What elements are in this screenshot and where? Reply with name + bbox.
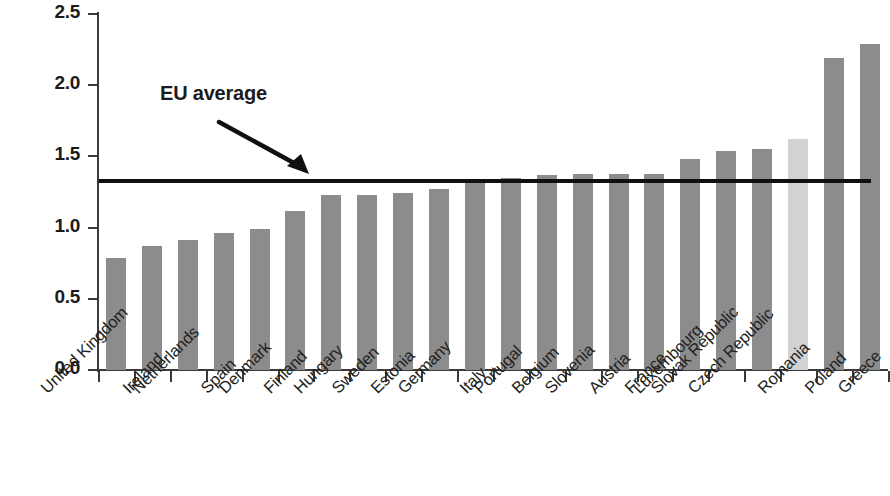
- bar: [142, 246, 162, 370]
- bar: [573, 174, 593, 371]
- bar: [178, 240, 198, 370]
- y-axis-tick: [88, 84, 98, 86]
- x-axis-tick: [457, 371, 459, 382]
- y-axis-tick-label: 2.5: [28, 1, 80, 23]
- x-axis-tick: [493, 371, 495, 382]
- x-axis-tick: [708, 371, 710, 382]
- y-axis-tick: [88, 298, 98, 300]
- x-axis-tick: [816, 371, 818, 382]
- y-axis-tick: [88, 13, 98, 15]
- bar: [680, 159, 700, 370]
- x-axis-tick: [780, 371, 782, 382]
- x-axis-tick: [278, 371, 280, 382]
- bar: [501, 178, 521, 370]
- bar: [465, 182, 485, 370]
- bar: [644, 174, 664, 371]
- x-axis-tick: [98, 371, 100, 382]
- x-axis-tick: [313, 371, 315, 382]
- x-axis-tick: [565, 371, 567, 382]
- x-axis-tick: [206, 371, 208, 382]
- bar: [393, 193, 413, 370]
- y-axis-tick-label: 1.0: [28, 215, 80, 237]
- x-axis-tick: [242, 371, 244, 382]
- chart-page: 0.00.51.01.52.02.5 EU average United Kin…: [0, 0, 890, 496]
- x-axis-tick: [637, 371, 639, 382]
- bar: [788, 139, 808, 370]
- bar: [824, 58, 844, 370]
- y-axis-tick-label: 0.0: [28, 357, 80, 379]
- eu-average-arrow-icon: [215, 118, 325, 182]
- x-axis-tick: [134, 371, 136, 382]
- y-axis-tick-label: 2.0: [28, 72, 80, 94]
- bar: [214, 233, 234, 370]
- x-axis-tick: [672, 371, 674, 382]
- x-axis-tick: [529, 371, 531, 382]
- x-axis-tick: [170, 371, 172, 382]
- bar: [106, 258, 126, 370]
- x-axis-tick: [385, 371, 387, 382]
- bar: [537, 175, 557, 370]
- y-axis-tick: [88, 155, 98, 157]
- bar: [250, 229, 270, 370]
- x-axis-tick: [888, 371, 890, 382]
- bar: [609, 174, 629, 371]
- y-axis-tick-label: 0.5: [28, 286, 80, 308]
- bar: [716, 151, 736, 370]
- bar: [285, 211, 305, 370]
- y-axis-tick-label: 1.5: [28, 143, 80, 165]
- eu-average-label: EU average: [160, 82, 267, 105]
- x-axis-tick: [852, 371, 854, 382]
- plot-area: [98, 14, 888, 370]
- x-axis-tick: [744, 371, 746, 382]
- y-axis-tick: [88, 227, 98, 229]
- x-axis-tick: [421, 371, 423, 382]
- bar: [860, 44, 880, 370]
- bar: [321, 195, 341, 370]
- bar: [357, 195, 377, 370]
- x-axis-tick: [349, 371, 351, 382]
- x-axis-tick: [601, 371, 603, 382]
- bar: [429, 189, 449, 370]
